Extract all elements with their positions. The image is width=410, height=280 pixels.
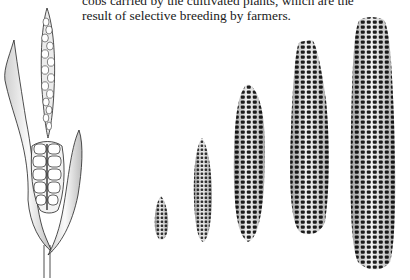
cob-4-icon <box>290 40 329 234</box>
cob-5-icon <box>351 17 396 270</box>
teosinte-plant-icon <box>5 8 82 278</box>
cob-3-icon <box>234 84 265 242</box>
cob-1-icon <box>155 196 168 240</box>
cob-2-icon <box>194 138 212 242</box>
maize-evolution-illustration <box>0 0 410 280</box>
